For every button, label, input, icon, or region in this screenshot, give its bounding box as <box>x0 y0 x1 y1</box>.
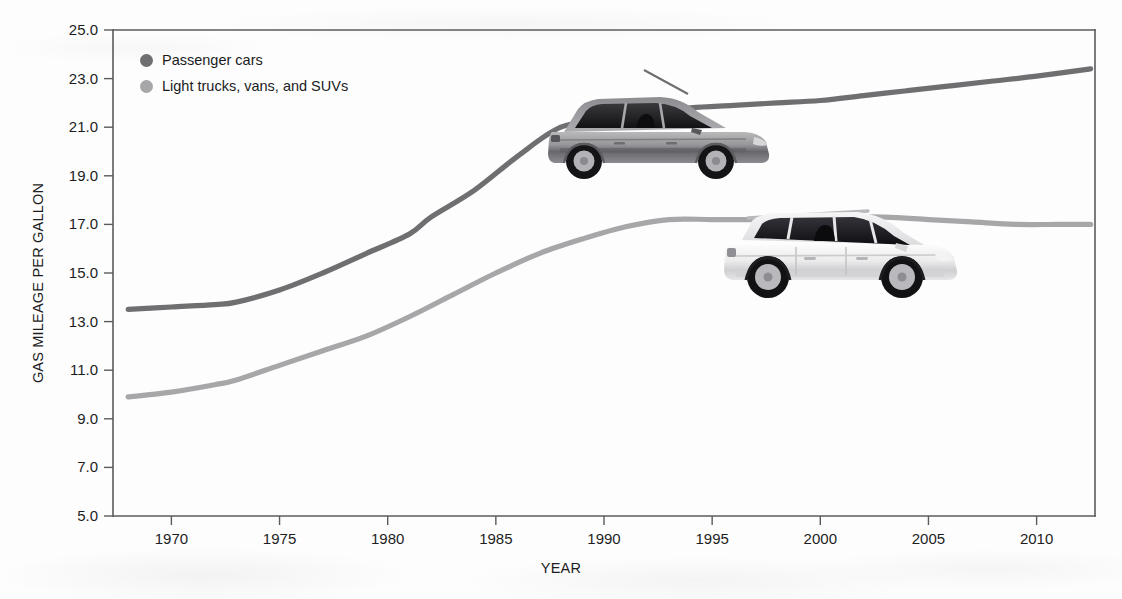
x-axis-title: YEAR <box>0 560 1122 576</box>
legend-label: Light trucks, vans, and SUVs <box>162 78 348 94</box>
y-tick-label: 25.0 <box>28 21 98 38</box>
x-tick-label: 2000 <box>780 530 860 547</box>
legend-item-light-trucks: Light trucks, vans, and SUVs <box>140 73 348 99</box>
x-tick-label: 2010 <box>997 530 1077 547</box>
chart-legend: Passenger cars Light trucks, vans, and S… <box>140 47 348 99</box>
suv-illustration <box>718 193 966 308</box>
x-tick-label: 1970 <box>131 530 211 547</box>
x-tick-label: 1980 <box>348 530 428 547</box>
x-tick-label: 2005 <box>888 530 968 547</box>
legend-label: Passenger cars <box>162 52 263 68</box>
y-tick-label: 23.0 <box>28 70 98 87</box>
legend-swatch-icon <box>140 54 153 67</box>
x-tick-label: 1975 <box>240 530 320 547</box>
x-tick-label: 1990 <box>564 530 644 547</box>
x-tick-label: 1995 <box>672 530 752 547</box>
x-axis-tick-marks <box>171 516 1036 525</box>
legend-item-passenger-cars: Passenger cars <box>140 47 348 73</box>
y-axis-title: GAS MILEAGE PER GALLON <box>30 133 46 433</box>
x-tick-label: 1985 <box>456 530 536 547</box>
y-tick-label: 5.0 <box>28 507 98 524</box>
legend-swatch-icon <box>140 80 153 93</box>
y-tick-label: 7.0 <box>28 458 98 475</box>
passenger-car-illustration <box>540 62 790 192</box>
y-axis-tick-marks <box>104 30 113 516</box>
gas-mileage-chart-figure: 5.07.09.011.013.015.017.019.021.023.025.… <box>0 0 1122 599</box>
